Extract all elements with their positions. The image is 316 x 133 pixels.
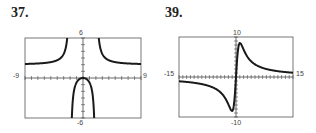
chart-39 xyxy=(179,37,293,117)
charts-canvas xyxy=(0,0,316,133)
chart-37 xyxy=(25,5,141,133)
